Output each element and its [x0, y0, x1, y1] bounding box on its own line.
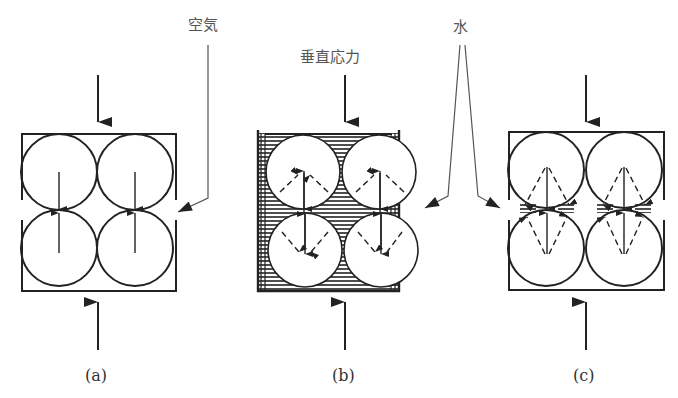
- panel-a: [21, 75, 176, 350]
- air-leader-line: [178, 45, 208, 212]
- air-label: 空気: [188, 18, 218, 33]
- particle: [508, 210, 584, 286]
- vertical-stress-label: 垂直応力: [300, 50, 360, 65]
- water-label: 水: [453, 20, 468, 35]
- water-leader-line-c: [465, 45, 500, 208]
- particle: [266, 135, 340, 209]
- particle: [508, 132, 584, 208]
- caption-a: (a): [85, 368, 107, 384]
- water-leader-line-b: [425, 45, 460, 208]
- caption-c: (c): [573, 368, 594, 384]
- panel-c: [508, 75, 664, 350]
- particle: [342, 135, 416, 209]
- caption-b: (b): [332, 368, 355, 384]
- panel-b: [258, 75, 418, 350]
